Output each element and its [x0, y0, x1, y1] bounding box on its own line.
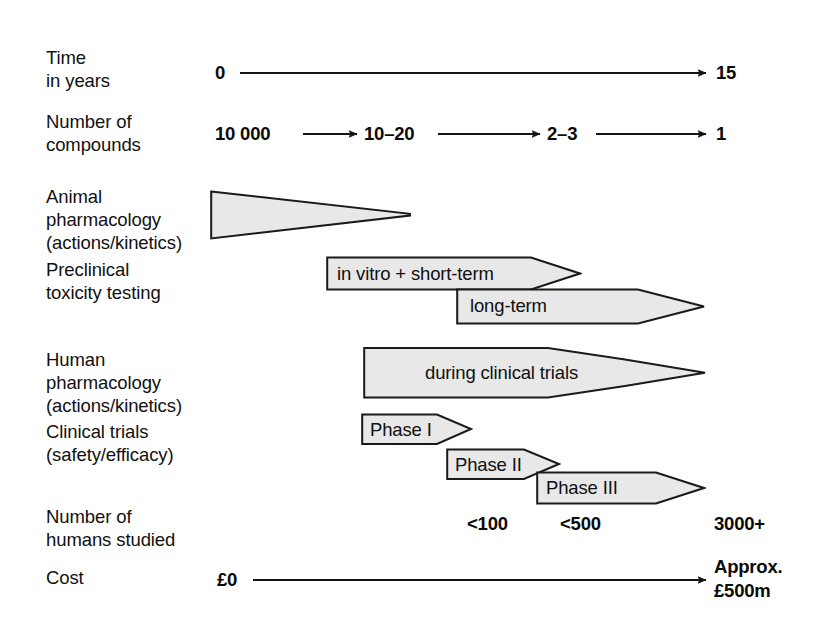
humans-studied-phase1: <100 [467, 513, 508, 535]
shape-label-phase-3: Phase III [546, 478, 618, 498]
compounds-step-4: 1 [716, 123, 726, 145]
row-label-animal-pharm: Animal pharmacology (actions/kinetics) [46, 185, 182, 254]
timeline-end-label: 15 [716, 62, 736, 84]
row-label-preclinical-tox: Preclinical toxicity testing [46, 258, 161, 304]
shape-label-phase-2: Phase II [455, 455, 522, 475]
row-label-human-pharm: Human pharmacology (actions/kinetics) [46, 348, 182, 417]
compounds-step-2: 10–20 [364, 123, 414, 145]
shape-label-in-vitro-short-term: in vitro + short-term [337, 264, 494, 284]
cost-end-label-approx: Approx. [714, 556, 783, 578]
drug-development-diagram: Time in years Number of compounds Animal… [0, 0, 823, 631]
row-label-clinical-trials: Clinical trials (safety/efficacy) [46, 420, 174, 466]
cost-start-label: £0 [217, 569, 237, 591]
humans-studied-phase2: <500 [560, 513, 601, 535]
row-label-humans-studied: Number of humans studied [46, 505, 175, 551]
compounds-step-3: 2–3 [547, 123, 577, 145]
shape-animal-pharmacology [210, 189, 412, 241]
humans-studied-phase3: 3000+ [714, 513, 765, 535]
timeline-start-label: 0 [215, 62, 225, 84]
shape-label-phase-1: Phase I [370, 420, 432, 440]
row-label-compounds: Number of compounds [46, 110, 141, 156]
compounds-step-1: 10 000 [215, 123, 270, 145]
shape-label-long-term: long-term [470, 296, 547, 316]
cost-end-label-amount: £500m [714, 580, 771, 602]
shape-label-during-clinical-trials: during clinical trials [425, 363, 578, 383]
row-label-cost: Cost [46, 566, 84, 589]
row-label-time: Time in years [46, 46, 110, 92]
